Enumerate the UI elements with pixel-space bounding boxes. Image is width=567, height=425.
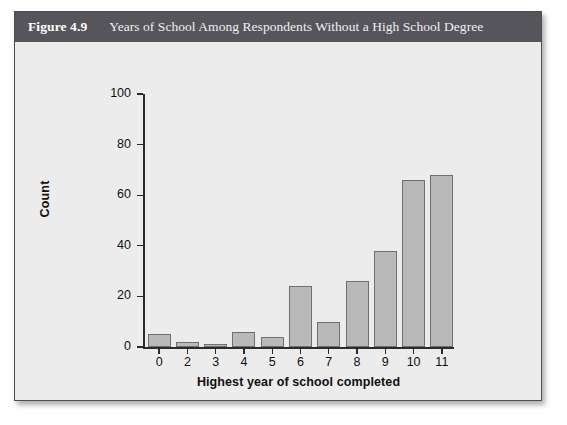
x-axis-tick: [243, 348, 244, 354]
y-axis-tick-label: 40: [91, 238, 131, 252]
x-axis-tick: [413, 348, 414, 354]
chart-plot-area: Count 020406080100 0234567891011 Highest…: [15, 42, 541, 400]
figure-caption-label: Years of School Among Respondents Withou…: [109, 19, 483, 35]
y-axis-tick: [137, 346, 143, 347]
y-axis-tick-label: 0: [91, 339, 131, 353]
y-axis-line: [143, 94, 145, 348]
x-axis-tick: [441, 348, 442, 354]
x-axis-tick-label: 6: [286, 355, 316, 369]
x-axis-tick: [356, 348, 357, 354]
y-axis-tick-label: 20: [91, 288, 131, 302]
bar: [176, 342, 199, 347]
x-axis-tick-label: 7: [314, 355, 344, 369]
y-axis-tick-label: 80: [91, 137, 131, 151]
bar: [289, 286, 312, 347]
x-axis-tick: [328, 348, 329, 354]
x-axis-tick: [385, 348, 386, 354]
x-axis-tick-label: 8: [342, 355, 372, 369]
x-axis-tick-label: 2: [172, 355, 202, 369]
bar: [430, 175, 453, 347]
x-axis-tick: [158, 348, 159, 354]
y-axis-tick: [137, 144, 143, 145]
bar: [374, 251, 397, 347]
x-axis-line: [143, 347, 454, 349]
x-axis-tick: [300, 348, 301, 354]
x-axis-tick-label: 3: [201, 355, 231, 369]
y-axis-tick: [137, 245, 143, 246]
x-axis-tick-label: 4: [229, 355, 259, 369]
x-axis-tick-label: 0: [144, 355, 174, 369]
bar: [402, 180, 425, 347]
x-axis-tick-label: 10: [399, 355, 429, 369]
x-axis-tick-label: 11: [427, 355, 457, 369]
y-axis-tick: [137, 296, 143, 297]
bar: [261, 337, 284, 347]
bar: [204, 344, 227, 347]
x-axis-tick: [215, 348, 216, 354]
bar: [148, 334, 171, 347]
x-axis-tick-label: 5: [257, 355, 287, 369]
y-axis-tick-label: 60: [91, 187, 131, 201]
bar: [317, 322, 340, 347]
x-axis-title: Highest year of school completed: [143, 375, 454, 389]
bar: [346, 281, 369, 347]
x-axis-tick: [187, 348, 188, 354]
y-axis-tick: [137, 195, 143, 196]
figure-header: Figure 4.9 Years of School Among Respond…: [15, 12, 541, 42]
figure-panel: Figure 4.9 Years of School Among Respond…: [14, 11, 542, 401]
y-axis-tick: [137, 93, 143, 94]
x-axis-tick-label: 9: [370, 355, 400, 369]
y-axis-tick-label: 100: [91, 86, 131, 100]
figure-number-label: Figure 4.9: [28, 19, 87, 35]
bar: [232, 332, 255, 347]
y-axis-title: Count: [38, 154, 52, 244]
x-axis-tick: [272, 348, 273, 354]
